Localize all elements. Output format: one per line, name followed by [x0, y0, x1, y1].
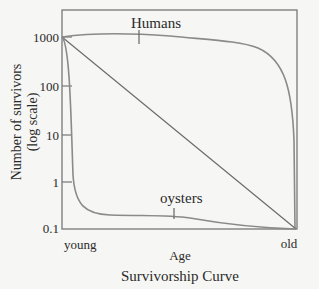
survivorship-chart: 1000 100 10 1 0.1 Number of survivors (l… [0, 0, 319, 289]
x-label-old: old [281, 236, 298, 251]
chart-title: Survivorship Curve [121, 268, 239, 284]
y-axis-title: Number of survivors [9, 64, 24, 181]
y-axis-subtitle: (log scale) [25, 92, 41, 151]
oysters-label: oysters [160, 190, 203, 206]
y-tick-1: 1 [53, 175, 60, 190]
x-label-young: young [64, 237, 97, 252]
humans-label: Humans [131, 15, 181, 31]
x-axis-title: Age [169, 248, 191, 263]
y-tick-100: 100 [40, 79, 60, 94]
y-tick-1000: 1000 [33, 30, 59, 45]
y-tick-0.1: 0.1 [43, 221, 59, 236]
y-tick-10: 10 [46, 128, 59, 143]
